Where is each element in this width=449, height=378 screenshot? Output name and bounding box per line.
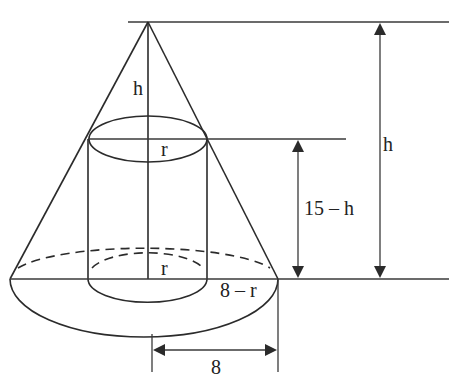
- cylinder-height-arrow-up: [292, 140, 304, 152]
- cone-base-back-arc: [18, 248, 270, 268]
- cone-left-side: [10, 22, 148, 279]
- cylinder-height-arrow-down: [292, 266, 304, 278]
- label-cylinder-bottom-radius: r: [161, 257, 168, 279]
- label-remainder-radius: 8 – r: [220, 279, 257, 301]
- label-cylinder-top-radius: r: [161, 138, 168, 160]
- cylinder-bottom-front-arc: [88, 279, 207, 302]
- cone-cylinder-diagram: h r r 8 – r 15 – h h 8: [0, 0, 449, 378]
- total-height-arrow-up: [374, 23, 386, 35]
- label-cylinder-height: 15 – h: [304, 197, 354, 219]
- base-radius-arrow-right: [265, 344, 277, 356]
- label-cone-upper-height: h: [133, 77, 143, 99]
- label-base-radius: 8: [211, 356, 221, 378]
- total-height-arrow-down: [374, 266, 386, 278]
- base-radius-arrow-left: [153, 344, 165, 356]
- label-total-height: h: [383, 133, 393, 155]
